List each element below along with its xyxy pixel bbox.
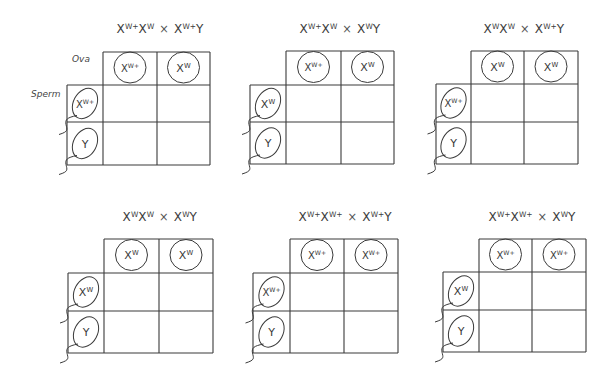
- offspring-cell[interactable]: [525, 85, 577, 121]
- offspring-cell[interactable]: [342, 123, 393, 163]
- offspring-cell[interactable]: [525, 123, 577, 163]
- genotype-allele: Y: [196, 22, 204, 36]
- ovum-allele: XW+: [362, 250, 380, 261]
- allele-base: Y: [268, 326, 275, 339]
- allele-base: X: [299, 210, 307, 224]
- offspring-cell[interactable]: [287, 86, 340, 121]
- allele-base: X: [360, 61, 368, 74]
- offspring-cell[interactable]: [345, 312, 397, 352]
- ovum-allele: XW+: [304, 62, 322, 73]
- allele-base: Y: [557, 22, 565, 36]
- offspring-cell[interactable]: [160, 274, 212, 310]
- genotype-allele: XW: [357, 22, 373, 36]
- allele-superscript: W: [365, 22, 372, 31]
- offspring-cell[interactable]: [342, 86, 393, 121]
- offspring-cell[interactable]: [533, 311, 585, 351]
- allele-superscript: W+: [497, 210, 511, 219]
- ovum-allele: XW: [360, 61, 374, 74]
- genotype-allele: XW: [139, 22, 155, 36]
- allele-base: X: [300, 22, 308, 36]
- ovum-allele: XW: [490, 60, 504, 73]
- cross-title: XWXW×XWY: [123, 210, 198, 224]
- sperm-label: Sperm: [31, 89, 60, 99]
- ovum-allele: XW+: [308, 250, 326, 261]
- offspring-cell[interactable]: [158, 86, 209, 121]
- offspring-cell[interactable]: [160, 312, 212, 352]
- allele-base: X: [76, 98, 83, 109]
- sperm-allele: Y: [83, 326, 90, 339]
- offspring-cell[interactable]: [158, 123, 209, 164]
- offspring-cell[interactable]: [480, 273, 531, 309]
- allele-superscript: W+: [125, 22, 139, 31]
- cross-title: XW+XW×XWY: [300, 22, 381, 36]
- sperm-tail: [242, 116, 260, 135]
- offspring-cell[interactable]: [345, 274, 397, 310]
- offspring-cell[interactable]: [480, 311, 531, 351]
- allele-base: X: [544, 60, 552, 73]
- allele-base: X: [261, 97, 269, 110]
- allele-superscript: W+: [329, 210, 343, 219]
- offspring-cell[interactable]: [105, 312, 158, 352]
- genotype-allele: XW: [123, 210, 139, 224]
- allele-base: X: [362, 250, 369, 261]
- genotype-allele: XW+: [321, 210, 343, 224]
- cross-title: XWXW×XW+Y: [484, 22, 565, 36]
- cross-title: XW+XW+×XW+Y: [299, 210, 392, 224]
- allele-superscript: W: [561, 210, 568, 219]
- allele-base: X: [499, 22, 507, 36]
- allele-base: X: [174, 210, 182, 224]
- allele-base: X: [321, 210, 329, 224]
- allele-superscript: W+: [557, 249, 568, 256]
- cross-symbol: ×: [538, 210, 548, 224]
- allele-base: X: [308, 250, 315, 261]
- allele-superscript: W: [182, 210, 189, 219]
- genotype-allele: XW+: [362, 210, 384, 224]
- offspring-cell[interactable]: [291, 274, 343, 310]
- allele-base: X: [535, 22, 543, 36]
- genotype-allele: Y: [568, 210, 576, 224]
- allele-base: X: [552, 210, 560, 224]
- sperm-allele: Y: [458, 325, 465, 338]
- allele-superscript: W+: [371, 210, 385, 219]
- allele-base: X: [490, 60, 498, 73]
- ova-label: Ova: [72, 54, 90, 64]
- allele-superscript: W: [330, 22, 337, 31]
- allele-superscript: W: [86, 286, 93, 294]
- sperm-allele: Y: [82, 137, 89, 150]
- allele-base: X: [444, 98, 451, 109]
- allele-base: X: [362, 210, 370, 224]
- allele-base: X: [304, 62, 311, 73]
- allele-superscript: W+: [543, 22, 557, 31]
- allele-superscript: W+: [369, 249, 380, 256]
- genotype-allele: XW+: [300, 22, 322, 36]
- allele-base: Y: [458, 325, 465, 338]
- allele-base: X: [262, 287, 269, 298]
- allele-superscript: W+: [315, 249, 326, 256]
- allele-superscript: W: [132, 249, 139, 257]
- cross-title: XW+XW+×XWY: [489, 210, 576, 224]
- allele-base: Y: [373, 22, 381, 36]
- allele-superscript: W: [147, 22, 154, 31]
- allele-base: X: [117, 22, 125, 36]
- genotype-allele: Y: [384, 210, 392, 224]
- sperm-tail: [59, 116, 77, 135]
- offspring-cell[interactable]: [291, 312, 343, 352]
- offspring-cell[interactable]: [533, 273, 585, 309]
- sperm-allele: Y: [265, 137, 272, 150]
- allele-base: Y: [190, 210, 198, 224]
- allele-superscript: W: [498, 60, 505, 68]
- allele-base: Y: [265, 137, 272, 150]
- allele-superscript: W+: [307, 210, 321, 219]
- allele-base: X: [550, 249, 557, 260]
- allele-base: X: [511, 210, 519, 224]
- genotype-allele: XW: [499, 22, 515, 36]
- allele-base: Y: [83, 326, 90, 339]
- offspring-cell[interactable]: [105, 274, 158, 310]
- offspring-cell[interactable]: [104, 86, 156, 121]
- allele-superscript: W+: [182, 22, 196, 31]
- offspring-cell[interactable]: [472, 123, 523, 163]
- offspring-cell[interactable]: [287, 123, 340, 163]
- offspring-cell[interactable]: [104, 123, 156, 164]
- ovum-allele: XW: [544, 60, 558, 73]
- offspring-cell[interactable]: [472, 85, 523, 121]
